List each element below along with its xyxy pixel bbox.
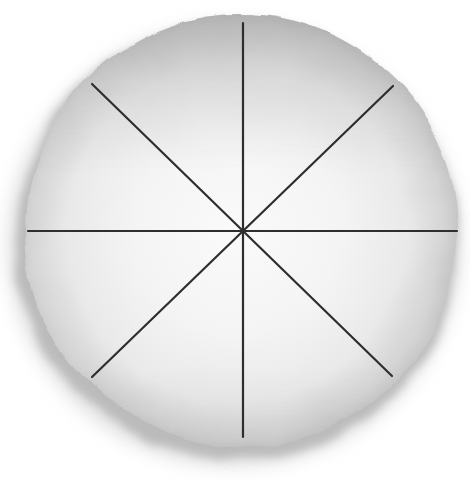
pie-diagram xyxy=(0,0,470,481)
figure-canvas xyxy=(0,0,470,481)
